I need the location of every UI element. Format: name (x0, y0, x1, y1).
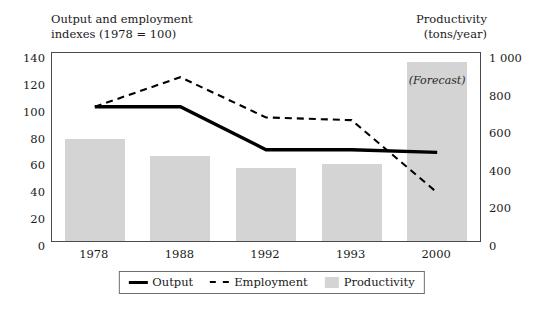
y-tick-left: 0 (11, 241, 45, 253)
right-axis-title-line1: Productivity (416, 12, 487, 27)
legend-label: Employment (234, 275, 308, 289)
x-tick-2000: 2000 (422, 247, 451, 261)
y-tick-left: 120 (11, 80, 45, 92)
y-tick-left: 100 (11, 107, 45, 119)
legend-label: Productivity (344, 275, 415, 289)
chart-legend: OutputEmploymentProductivity (118, 271, 424, 294)
y-tick-left: 40 (11, 187, 45, 199)
y-tick-left: 60 (11, 160, 45, 172)
line-employment (95, 77, 437, 192)
y-tick-right: 400 (489, 166, 533, 178)
y-tick-left: 80 (11, 134, 45, 146)
legend-item-productivity[interactable]: Productivity (325, 275, 415, 289)
plot-area: (Forecast) (51, 52, 481, 242)
x-tick-1992: 1992 (250, 247, 279, 261)
left-axis-title-line1: Output and employment (51, 12, 193, 27)
y-tick-right: 200 (489, 203, 533, 215)
legend-item-employment[interactable]: Employment (210, 275, 308, 289)
y-tick-left: 140 (11, 53, 45, 65)
y-tick-right: 600 (489, 128, 533, 140)
left-axis-title-line2: indexes (1978 = 100) (51, 27, 193, 42)
y-tick-right: 800 (489, 91, 533, 103)
right-axis-title: Productivity (tons/year) (416, 12, 487, 42)
legend-item-output[interactable]: Output (128, 275, 193, 289)
legend-swatch-output-icon (128, 281, 147, 284)
x-axis-category-labels: 19781988199219932000 (51, 247, 481, 265)
line-output (95, 107, 437, 153)
y-tick-left: 20 (11, 214, 45, 226)
line-series-layer (52, 53, 480, 241)
legend-label: Output (152, 275, 193, 289)
x-tick-1988: 1988 (165, 247, 194, 261)
legend-swatch-employment-icon (210, 281, 229, 283)
y-tick-right: 0 (489, 241, 533, 253)
left-axis-title: Output and employment indexes (1978 = 10… (51, 12, 193, 42)
right-axis-title-line2: (tons/year) (416, 27, 487, 42)
legend-swatch-productivity-icon (325, 277, 339, 288)
chart-figure: Output and employment indexes (1978 = 10… (0, 0, 543, 310)
y-tick-right: 1 000 (489, 53, 533, 65)
x-tick-1993: 1993 (336, 247, 365, 261)
x-tick-1978: 1978 (79, 247, 108, 261)
